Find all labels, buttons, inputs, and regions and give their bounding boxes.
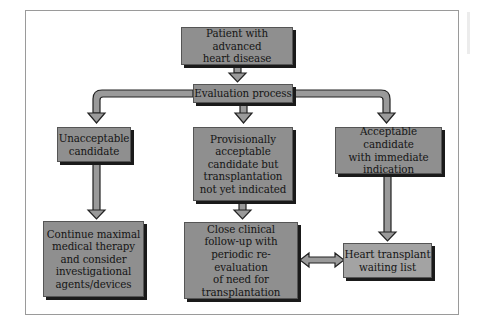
arrow-to-unacceptable [88,113,105,123]
node-start: Patient with advanced heart disease [181,27,293,65]
node-waiting-list: Heart transplant waiting list [343,243,432,278]
arrow-provisional-to-followup [234,201,251,219]
node-acceptable: Acceptable candidate with immediate indi… [335,127,442,174]
node-follow-up: Close clinical follow-up with periodic r… [184,222,298,299]
arrow-start-to-evaluation [229,65,246,82]
node-unacceptable: Unacceptable candidate [57,127,131,162]
node-provisional: Provisionally acceptable candidate but t… [193,127,293,201]
node-evaluation: Evaluation process [193,84,293,103]
arrow-acceptable-to-waiting [379,174,396,241]
arrow-unacceptable-to-continue [88,162,105,219]
arrow-to-acceptable [378,113,395,123]
node-continue-therapy: Continue maximal medical therapy and con… [43,221,144,297]
arrow-followup-waiting-bidirectional [300,253,344,267]
arrow-to-provisional [235,113,252,123]
